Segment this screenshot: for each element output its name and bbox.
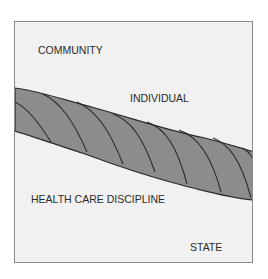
health-care-discipline-label: HEALTH CARE DISCIPLINE: [31, 193, 165, 205]
individual-label: INDIVIDUAL: [130, 92, 189, 104]
twisted-rope-graphic: [15, 22, 253, 263]
diagram-frame: COMMUNITY INDIVIDUAL HEALTH CARE DISCIPL…: [14, 21, 253, 263]
community-label: COMMUNITY: [38, 44, 103, 56]
state-label: STATE: [190, 241, 222, 253]
